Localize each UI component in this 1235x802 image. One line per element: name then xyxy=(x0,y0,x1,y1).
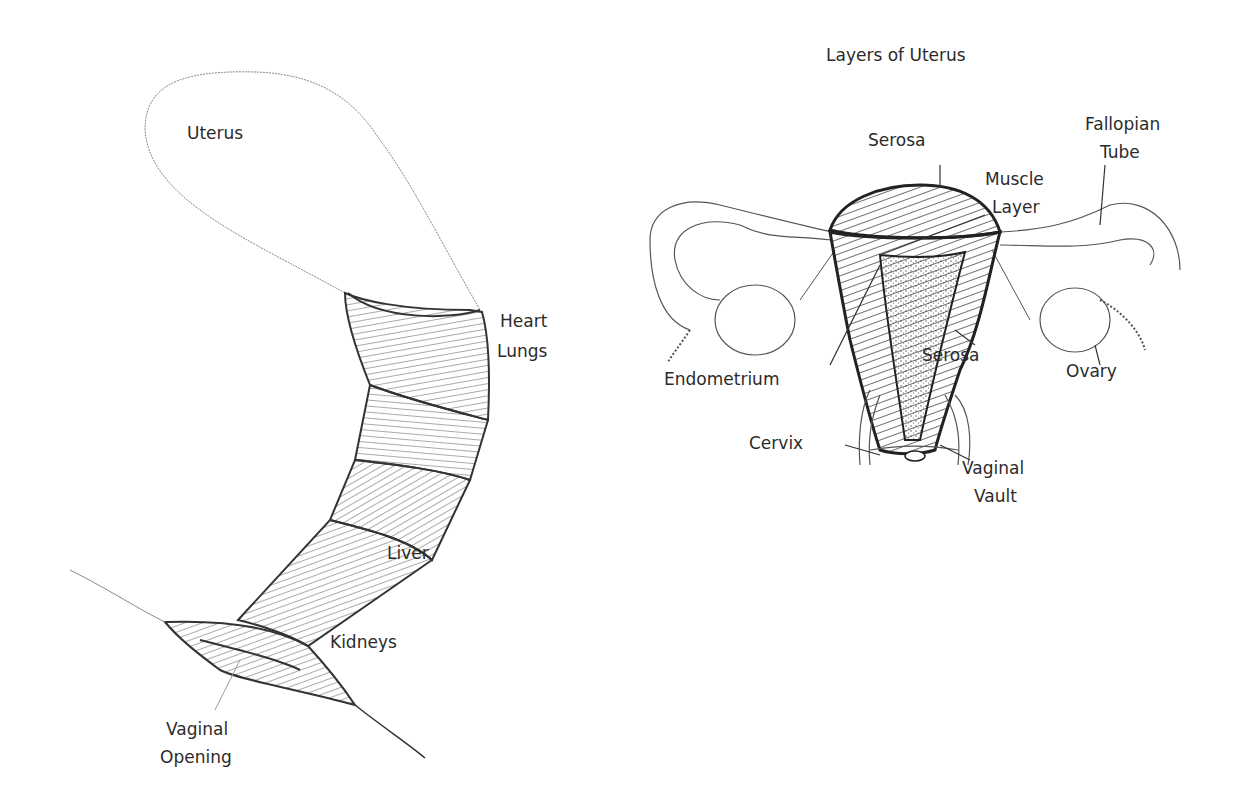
label-vaginal-opening-line2: Opening xyxy=(160,746,232,768)
label-vault-line1: Vaginal xyxy=(962,457,1024,479)
label-uterus: Uterus xyxy=(187,122,243,144)
label-muscle-line2: Layer xyxy=(992,196,1039,218)
label-serosa-top: Serosa xyxy=(868,129,926,151)
label-muscle-line1: Muscle xyxy=(985,168,1044,190)
label-serosa-side: Serosa xyxy=(922,344,980,366)
left-ovary xyxy=(715,285,795,355)
label-lungs: Lungs xyxy=(497,340,547,362)
label-cervix: Cervix xyxy=(749,432,803,454)
left-anatomy-figure xyxy=(70,72,489,758)
uterus-layers-figure xyxy=(650,165,1180,465)
diagram-title: Layers of Uterus xyxy=(826,44,966,66)
uterus-outline xyxy=(145,72,480,310)
label-vault-line2: Vault xyxy=(974,485,1017,507)
label-fallopian-line1: Fallopian xyxy=(1085,113,1160,135)
label-ovary: Ovary xyxy=(1066,360,1117,382)
label-vaginal-opening-line1: Vaginal xyxy=(166,718,228,740)
cervix-os xyxy=(905,451,925,461)
right-ovary xyxy=(1040,288,1110,352)
uterus-fundus xyxy=(830,185,1000,238)
label-fallopian-line2: Tube xyxy=(1100,141,1140,163)
label-endometrium: Endometrium xyxy=(664,368,779,390)
diagram-canvas xyxy=(0,0,1235,802)
label-kidneys: Kidneys xyxy=(330,631,397,653)
label-heart: Heart xyxy=(500,310,547,332)
label-liver: Liver xyxy=(387,542,429,564)
left-fallopian-tube xyxy=(650,202,832,330)
